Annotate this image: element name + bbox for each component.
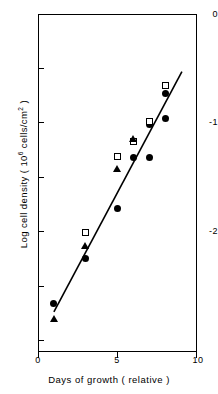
data-point-filled-triangle xyxy=(81,242,89,249)
y-tick-m2_5 xyxy=(38,286,44,287)
y-tick-m0_5 xyxy=(38,68,44,69)
figure-container: 0 -1 -2 0 5 10 Log cell density ( 106 ce… xyxy=(0,0,218,394)
y-tick-label-m2: -2 xyxy=(184,227,218,236)
y-tick-label-0: 0 xyxy=(184,10,218,19)
y-tick-0 xyxy=(38,14,44,15)
data-point-open-square xyxy=(82,229,89,236)
y-tick-m1_5 xyxy=(38,177,44,178)
data-point-filled-triangle xyxy=(113,165,121,172)
data-point-open-square xyxy=(114,153,121,160)
x-tick-label-0: 0 xyxy=(26,356,50,365)
data-point-open-square xyxy=(146,118,153,125)
x-tick-label-5: 5 xyxy=(105,356,129,365)
x-axis-title: Days of growth ( relative ) xyxy=(0,374,218,385)
data-point-filled-circle xyxy=(130,154,137,161)
data-point-filled-circle xyxy=(146,154,153,161)
data-point-filled-circle xyxy=(162,90,169,97)
data-point-open-square xyxy=(162,82,169,89)
data-point-filled-triangle xyxy=(50,315,58,322)
y-tick-m1 xyxy=(38,122,44,123)
data-point-filled-circle xyxy=(162,115,169,122)
plot-axes-frame xyxy=(38,14,197,352)
data-point-filled-circle xyxy=(114,205,121,212)
y-tick-m3 xyxy=(38,340,44,341)
y-axis-title-text: Log cell density ( 106 cells/cm2 ) xyxy=(18,100,29,248)
y-tick-m2 xyxy=(38,231,44,232)
y-axis-title: Log cell density ( 106 cells/cm2 ) xyxy=(17,59,29,289)
data-point-filled-triangle xyxy=(129,135,137,142)
x-tick-label-10: 10 xyxy=(186,356,210,365)
y-tick-label-m1: -1 xyxy=(184,118,218,127)
